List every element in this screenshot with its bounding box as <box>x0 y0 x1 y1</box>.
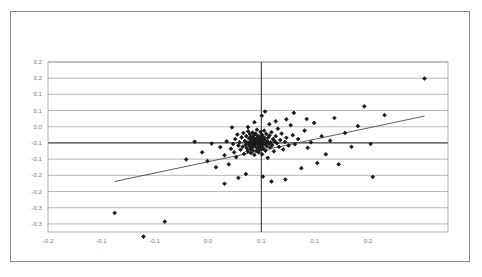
y-tick-label: -0.1 <box>20 139 42 146</box>
y-tick-label: 0.1 <box>20 107 42 114</box>
x-tick-label: 0.1 <box>246 237 276 244</box>
x-tick-label: 0.1 <box>300 237 330 244</box>
y-tick-label: 0.2 <box>20 58 42 65</box>
y-tick-label: 0.0 <box>20 123 42 130</box>
x-tick-label: -0.1 <box>86 237 116 244</box>
chart-figure: 0.20.20.10.10.0-0.1-0.1-0.2-0.2-0.3-0.3-… <box>0 0 482 277</box>
x-tick-label: 0.0 <box>193 237 223 244</box>
y-tick-label: 0.1 <box>20 90 42 97</box>
scatter-plot <box>0 0 482 277</box>
x-tick-label: -0.1 <box>140 237 170 244</box>
x-tick-label: 0.2 <box>353 237 383 244</box>
y-tick-label: -0.3 <box>20 220 42 227</box>
x-tick-label: -0.2 <box>33 237 63 244</box>
y-tick-label: -0.1 <box>20 155 42 162</box>
y-tick-label: -0.3 <box>20 204 42 211</box>
y-tick-label: -0.2 <box>20 188 42 195</box>
y-tick-label: 0.2 <box>20 74 42 81</box>
y-tick-label: -0.2 <box>20 171 42 178</box>
